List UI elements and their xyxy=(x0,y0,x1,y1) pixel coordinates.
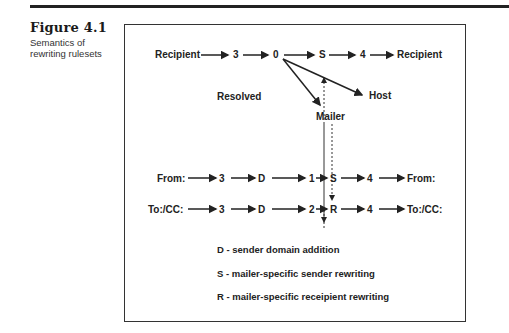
legend-item-r: R - mailer-specific receipient rewriting xyxy=(217,291,389,302)
row3-start-label: To:/CC: xyxy=(148,204,183,215)
row2-node-3: 3 xyxy=(219,173,225,184)
row2-node-4: 4 xyxy=(367,173,373,184)
row2-node-d: D xyxy=(258,173,265,184)
row3-node-3: 3 xyxy=(219,204,225,215)
row1-end-label: Recipient xyxy=(397,49,443,60)
legend-item-d: D - sender domain addition xyxy=(217,244,339,255)
ruleset-diagram: Recipient 3 0 S 4 Recipient Resolved Mai… xyxy=(0,0,509,333)
row1-node-4: 4 xyxy=(360,49,366,60)
legend-item-s: S - mailer-specific sender rewriting xyxy=(217,268,375,279)
row2-node-s: S xyxy=(330,173,337,184)
arrow-to-mailer xyxy=(283,59,320,105)
row2-start-label: From: xyxy=(157,173,185,184)
arrow-to-host xyxy=(283,59,362,95)
row1-node-s: S xyxy=(319,49,326,60)
row1-node-0: 0 xyxy=(273,49,279,60)
row3-node-d: D xyxy=(258,204,265,215)
row2-node-1: 1 xyxy=(309,173,315,184)
row3-node-r: R xyxy=(330,204,338,215)
row3-end-label: To:/CC: xyxy=(407,204,442,215)
row3-node-2: 2 xyxy=(309,204,315,215)
row1-node-3: 3 xyxy=(233,49,239,60)
row3-node-4: 4 xyxy=(367,204,373,215)
row2-end-label: From: xyxy=(407,173,435,184)
row1-start-label: Recipient xyxy=(155,49,201,60)
resolved-label: Resolved xyxy=(217,91,261,102)
host-label: Host xyxy=(369,90,392,101)
mailer-label: Mailer xyxy=(316,111,345,122)
